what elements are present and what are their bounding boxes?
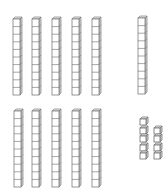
unit-cubes-group <box>140 117 162 159</box>
ten-rods-group <box>13 16 147 187</box>
unit-cube <box>140 143 148 151</box>
ten-rod <box>72 17 81 95</box>
base-ten-blocks-diagram <box>0 0 168 189</box>
ten-rod <box>52 109 61 187</box>
ten-rod <box>52 17 61 95</box>
ten-rod <box>138 16 147 94</box>
unit-cube <box>140 126 148 134</box>
unit-cube <box>154 134 162 142</box>
unit-cube <box>154 143 162 151</box>
ten-rod <box>32 17 41 95</box>
ten-rod <box>92 109 101 187</box>
ten-rod <box>72 109 81 187</box>
unit-cube <box>140 151 148 159</box>
ten-rod <box>92 17 101 95</box>
ten-rod <box>13 17 22 95</box>
unit-cube <box>140 134 148 142</box>
unit-cube <box>154 126 162 134</box>
ten-rod <box>14 109 23 187</box>
unit-cube <box>140 117 148 125</box>
unit-cube <box>154 151 162 159</box>
ten-rod <box>32 109 41 187</box>
